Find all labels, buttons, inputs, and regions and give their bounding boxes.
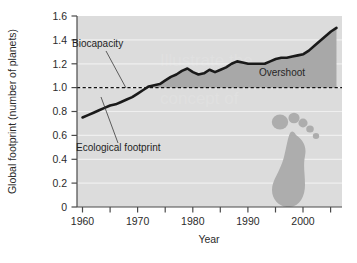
y-tick-label-0-8: 0.8 <box>52 105 67 117</box>
y-tick-label-0: 0 <box>61 201 67 213</box>
annotation-overshoot: Overshoot <box>259 67 305 78</box>
x-tick-label-1990: 1990 <box>236 215 260 227</box>
background-watermark-2: concept of <box>160 89 239 108</box>
footprint-toe-5 <box>313 133 319 139</box>
x-tick-label-1960: 1960 <box>71 215 95 227</box>
chart-figure: Illustrate the concept of <box>0 0 357 263</box>
y-tick-label-0-2: 0.2 <box>52 177 67 189</box>
footprint-toe-1 <box>272 115 288 130</box>
x-tick-label-1970: 1970 <box>126 215 150 227</box>
x-tick-label-1980: 1980 <box>181 215 205 227</box>
y-axis-tick-labels: 0 0.2 0.4 0.6 0.8 1.0 1.2 1.4 1.6 <box>52 10 67 213</box>
y-tick-label-0-6: 0.6 <box>52 129 67 141</box>
y-tick-label-1-6: 1.6 <box>52 10 67 22</box>
annotation-biocapacity: Biocapacity <box>72 38 123 49</box>
y-tick-label-1-4: 1.4 <box>52 34 67 46</box>
x-axis-title: Year <box>198 233 220 245</box>
y-tick-label-1-0: 1.0 <box>52 81 67 93</box>
y-axis-title: Global footprint (number of planets) <box>6 29 18 194</box>
footprint-toe-2 <box>288 113 299 123</box>
footprint-toe-3 <box>298 119 307 128</box>
x-tick-label-2000: 2000 <box>291 215 315 227</box>
footprint-toe-4 <box>306 125 314 132</box>
annotation-ecological-footprint: Ecological footprint <box>76 142 161 153</box>
y-tick-label-0-4: 0.4 <box>52 153 67 165</box>
y-tick-label-1-2: 1.2 <box>52 58 67 70</box>
footprint-chart-svg: Illustrate the concept of <box>0 0 357 263</box>
